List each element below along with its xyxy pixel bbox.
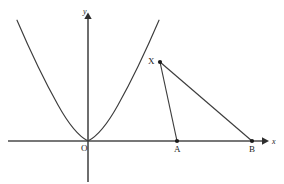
point-marker-b: [250, 139, 254, 143]
label-point-x: X: [148, 57, 155, 66]
geometry-figure: O X A B x y: [0, 0, 284, 184]
label-point-b: B: [249, 145, 255, 154]
label-origin: O: [81, 144, 88, 153]
point-marker-x: [158, 60, 162, 64]
segment-xb: [160, 62, 252, 141]
figure-canvas: [0, 0, 284, 184]
label-axis-y: y: [83, 8, 87, 16]
x-axis-arrow-icon: [262, 137, 269, 145]
point-marker-a: [175, 139, 179, 143]
label-point-a: A: [174, 145, 181, 154]
label-axis-x: x: [272, 138, 276, 146]
